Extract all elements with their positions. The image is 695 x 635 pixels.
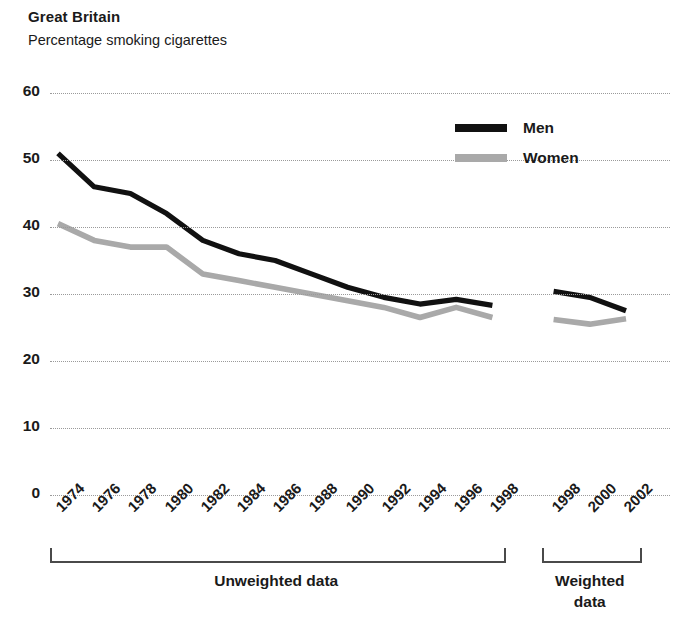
x-axis-tick-label: 1994	[414, 479, 450, 515]
x-axis-tick-label: 2000	[584, 479, 620, 515]
x-axis-tick-label: 1982	[197, 479, 233, 515]
x-axis-tick-label: 1986	[269, 479, 305, 515]
x-axis-tick-label: 1978	[124, 479, 160, 515]
x-axis-tick-label: 1984	[233, 479, 269, 515]
x-axis-tick-label: 2002	[620, 479, 656, 515]
group-label-weighted-line1: Weighted	[528, 570, 652, 591]
x-axis-tick-label: 1976	[88, 479, 124, 515]
group-label-weighted: Weighted data	[528, 570, 652, 612]
x-axis-tick-label: 1988	[305, 479, 341, 515]
x-axis-tick-label: 1998	[486, 479, 522, 515]
x-axis-tick-label: 1980	[161, 479, 197, 515]
x-axis-labels: 1974197619781980198219841986198819901992…	[0, 0, 695, 635]
group-label-unweighted: Unweighted data	[50, 570, 502, 591]
group-label-weighted-line2: data	[528, 591, 652, 612]
x-axis-tick-label: 1998	[548, 479, 584, 515]
bracket-weighted	[542, 548, 642, 563]
x-axis-tick-label: 1974	[52, 479, 88, 515]
x-axis-tick-label: 1996	[450, 479, 486, 515]
chart-container: Great Britain Percentage smoking cigaret…	[0, 0, 695, 635]
x-axis-tick-label: 1990	[342, 479, 378, 515]
x-axis-tick-label: 1992	[378, 479, 414, 515]
bracket-unweighted	[50, 548, 506, 563]
